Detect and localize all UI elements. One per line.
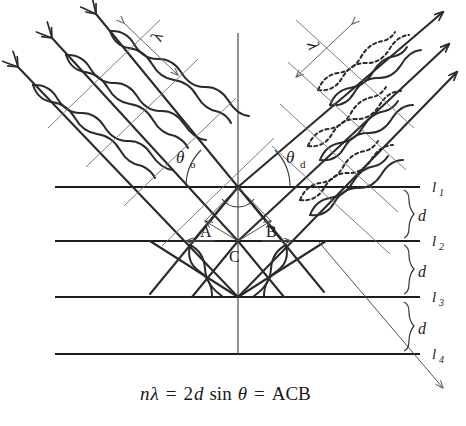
scatter-ray-l3-right	[238, 241, 326, 297]
spacing-brace-2: d	[404, 245, 427, 294]
equation-sin: sin	[209, 383, 232, 404]
brace-shape-2	[404, 245, 414, 294]
equation-equals-2: =	[254, 383, 265, 404]
lattice-label-l2-subscript: 2	[439, 241, 444, 252]
diffracted-wave-solid-3b	[310, 156, 388, 215]
lattice-label-l3: l 3	[432, 289, 444, 308]
diffracted-wavelength-dimension: λ	[296, 24, 352, 77]
diffracted-beam-group	[238, 12, 457, 297]
lattice-label-l4: l 4	[432, 346, 444, 365]
spacing-brace-3: d	[404, 302, 427, 351]
spacing-label-2: d	[418, 263, 427, 280]
diffracted-ray-1	[238, 12, 443, 187]
equation-d: d	[194, 383, 204, 404]
theta-o-subscript: o	[190, 158, 196, 170]
lambda-right-dim-line	[296, 24, 352, 77]
equation-theta: θ	[238, 383, 247, 404]
incident-wave-2b	[66, 55, 188, 148]
point-label-A: A	[200, 223, 212, 240]
incident-angle-label: θ o	[176, 148, 196, 170]
theta-d-symbol: θ	[286, 148, 294, 167]
brace-shape-1	[404, 190, 414, 238]
incident-ray-2	[52, 38, 238, 241]
bragg-equation: nλ=2dsinθ=ACB	[140, 383, 311, 404]
spacing-label-1: d	[418, 207, 427, 224]
guide-vertex-to-A	[205, 187, 238, 221]
equation-equals-1: =	[166, 383, 177, 404]
equation-lambda: λ	[150, 383, 159, 404]
lattice-label-l4-symbol: l	[432, 346, 436, 362]
diffracted-angle-label: θ d	[286, 148, 306, 170]
spacing-label-3: d	[418, 320, 427, 337]
lattice-label-l4-subscript: 4	[439, 354, 444, 365]
diffracted-wavefront-1	[296, 20, 414, 128]
lattice-label-l3-subscript: 3	[438, 297, 444, 308]
lattice-label-l1-subscript: 1	[439, 187, 444, 198]
theta-d-subscript: d	[300, 158, 306, 170]
lattice-label-l3-symbol: l	[432, 289, 436, 305]
scatter-ray-l3-left	[150, 241, 238, 297]
diffracted-wavefront-2	[288, 62, 406, 170]
point-label-B: B	[266, 223, 277, 240]
svg-text:nλ=2dsinθ=ACB: nλ=2dsinθ=ACB	[140, 383, 311, 404]
lattice-label-l1-symbol: l	[432, 179, 436, 195]
incident-ray-1	[96, 14, 238, 187]
spacing-brace-1: d	[404, 190, 427, 238]
incident-wave-1b	[110, 31, 231, 123]
lambda-left-label: λ	[146, 30, 167, 44]
lattice-label-l1: l 1	[432, 179, 444, 198]
lattice-label-l2-symbol: l	[432, 233, 436, 249]
equation-n: n	[140, 383, 150, 404]
diffracted-wave-dotted-3b	[300, 141, 378, 200]
diagram-canvas: θ o θ d λ λ A B C l 1 l 2 l 3 l 4 d d	[0, 0, 466, 426]
equation-acb: ACB	[272, 383, 311, 404]
point-label-C: C	[229, 248, 240, 265]
guide-vertex-to-B	[238, 187, 271, 221]
theta-o-symbol: θ	[176, 148, 184, 167]
equation-two: 2	[183, 383, 193, 404]
lattice-label-l2: l 2	[432, 233, 444, 252]
bragg-diffraction-figure: θ o θ d λ λ A B C l 1 l 2 l 3 l 4 d d	[0, 0, 466, 426]
lambda-right-label: λ	[303, 38, 324, 52]
incident-wave-2	[66, 55, 206, 140]
